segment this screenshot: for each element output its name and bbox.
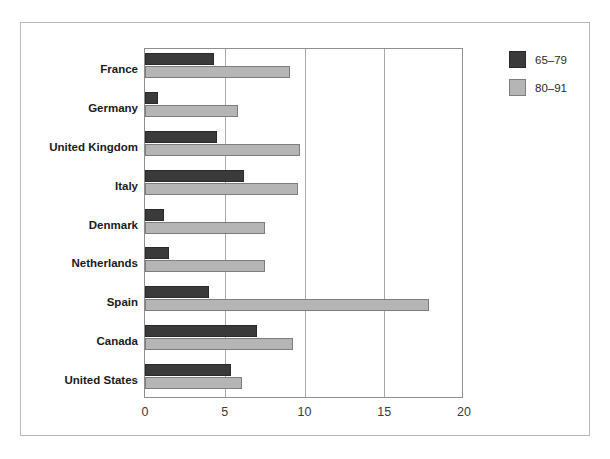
x-tick-label-5: 5	[221, 405, 228, 419]
chart-row: Canada	[145, 321, 462, 360]
legend-label: 65–79	[535, 54, 567, 66]
x-tick-label-0: 0	[142, 405, 149, 419]
bar-united-states-65-79	[145, 364, 231, 376]
chart-row: United States	[145, 360, 462, 399]
category-label-spain: Spain	[0, 297, 138, 309]
bar-united-kingdom-80-91	[145, 144, 300, 156]
bar-united-states-80-91	[145, 377, 242, 389]
legend-item-65-79[interactable]: 65–79	[509, 51, 587, 68]
bar-italy-80-91	[145, 183, 298, 195]
category-label-italy: Italy	[0, 181, 138, 193]
bar-spain-65-79	[145, 286, 209, 298]
chart-row: United Kingdom	[145, 127, 462, 166]
chart-legend: 65–7980–91	[509, 51, 587, 107]
bar-italy-65-79	[145, 170, 244, 182]
chart-row: Denmark	[145, 205, 462, 244]
bar-united-kingdom-65-79	[145, 131, 217, 143]
chart-row: France	[145, 49, 462, 88]
category-label-united-states: United States	[0, 375, 138, 387]
category-label-canada: Canada	[0, 336, 138, 348]
plot-area: FranceGermanyUnited KingdomItalyDenmarkN…	[144, 48, 463, 398]
category-label-united-kingdom: United Kingdom	[0, 142, 138, 154]
bar-france-65-79	[145, 53, 214, 65]
legend-swatch-icon	[509, 79, 526, 96]
category-label-germany: Germany	[0, 103, 138, 115]
legend-item-80-91[interactable]: 80–91	[509, 79, 587, 96]
legend-label: 80–91	[535, 82, 567, 94]
bar-denmark-80-91	[145, 222, 265, 234]
x-tick-label-10: 10	[298, 405, 312, 419]
bar-germany-80-91	[145, 105, 238, 117]
bar-germany-65-79	[145, 92, 158, 104]
bar-spain-80-91	[145, 299, 429, 311]
bar-denmark-65-79	[145, 209, 164, 221]
chart-figure: FranceGermanyUnited KingdomItalyDenmarkN…	[20, 22, 590, 436]
category-label-france: France	[0, 64, 138, 76]
bar-canada-65-79	[145, 325, 257, 337]
chart-row: Germany	[145, 88, 462, 127]
chart-row: Spain	[145, 282, 462, 321]
x-tick-label-20: 20	[457, 405, 471, 419]
chart-row: Italy	[145, 166, 462, 205]
legend-swatch-icon	[509, 51, 526, 68]
category-label-denmark: Denmark	[0, 220, 138, 232]
bar-netherlands-80-91	[145, 260, 265, 272]
bar-france-80-91	[145, 66, 290, 78]
bar-netherlands-65-79	[145, 247, 169, 259]
x-tick-label-15: 15	[377, 405, 391, 419]
chart-row: Netherlands	[145, 243, 462, 282]
category-label-netherlands: Netherlands	[0, 258, 138, 270]
bar-canada-80-91	[145, 338, 293, 350]
